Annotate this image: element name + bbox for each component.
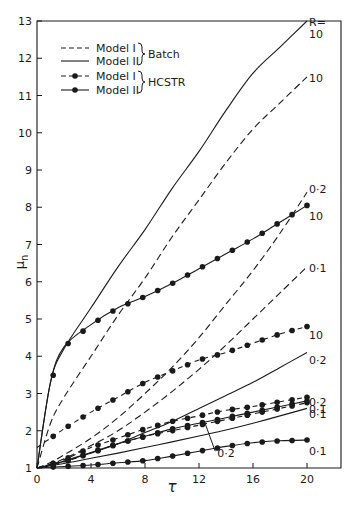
data-point bbox=[230, 407, 236, 413]
data-point bbox=[155, 431, 161, 437]
data-point bbox=[230, 348, 236, 354]
data-point bbox=[185, 272, 191, 278]
data-point bbox=[259, 439, 265, 445]
chart-svg: 12345678910111213048121620 R=10100·20·10… bbox=[0, 0, 358, 509]
data-point bbox=[80, 463, 86, 469]
data-point bbox=[244, 412, 250, 418]
data-point bbox=[289, 438, 295, 444]
series-hcstr-model-ii-r-0-2: 0·2 bbox=[37, 396, 327, 468]
data-point bbox=[304, 400, 310, 406]
legend-entry: Model I bbox=[61, 42, 136, 55]
series-end-label: 10 bbox=[309, 210, 323, 223]
data-point bbox=[140, 381, 146, 387]
series-hcstr-model-ii-r-0-1: 0·1 bbox=[37, 437, 327, 470]
legend-brace bbox=[138, 43, 145, 65]
y-axis-label-sub: n bbox=[19, 255, 30, 261]
data-point bbox=[304, 437, 310, 443]
series-hcstr-model-i-r-0-1: 0·1 bbox=[37, 400, 327, 468]
data-point bbox=[200, 264, 206, 270]
data-point bbox=[140, 458, 146, 464]
annotation-0-2: 0·2 bbox=[204, 421, 234, 459]
series-end-label: 0·1 bbox=[309, 408, 327, 421]
series-end-label: 0·1 bbox=[309, 445, 327, 458]
series-end-label: 10 bbox=[309, 28, 323, 41]
data-point bbox=[244, 239, 250, 245]
data-point bbox=[215, 419, 221, 425]
y-tick-label: 13 bbox=[18, 15, 32, 28]
x-tick-label: 4 bbox=[88, 473, 95, 486]
data-point bbox=[200, 448, 206, 454]
annotation-label: 0·2 bbox=[217, 447, 235, 460]
series-end-label: 10 bbox=[309, 329, 323, 342]
data-point bbox=[274, 399, 280, 405]
data-point bbox=[125, 432, 131, 438]
y-tick-label: 11 bbox=[18, 90, 32, 103]
series-batch-model-i-r-0-2: 0·2 bbox=[37, 183, 327, 468]
legend-entry: Model II bbox=[61, 55, 139, 68]
data-point bbox=[80, 328, 86, 334]
data-point bbox=[110, 397, 116, 403]
x-tick-label: 16 bbox=[246, 473, 260, 486]
data-point bbox=[170, 428, 176, 434]
data-point bbox=[170, 453, 176, 459]
data-point bbox=[125, 389, 131, 395]
data-point bbox=[274, 438, 280, 444]
y-tick-label: 10 bbox=[18, 127, 32, 140]
legend-label: Model II bbox=[96, 55, 139, 68]
data-point bbox=[215, 352, 221, 358]
data-point bbox=[65, 341, 71, 347]
data-point bbox=[259, 409, 265, 415]
data-point bbox=[259, 337, 265, 343]
data-point bbox=[125, 301, 131, 307]
data-point bbox=[95, 317, 101, 323]
data-point bbox=[170, 419, 176, 425]
data-point bbox=[170, 368, 176, 374]
y-tick-label: 3 bbox=[25, 388, 32, 401]
data-point bbox=[125, 438, 131, 444]
data-point bbox=[185, 425, 191, 431]
data-point bbox=[200, 412, 206, 418]
data-point bbox=[140, 295, 146, 301]
series-end-label: 0·1 bbox=[309, 262, 327, 275]
series-end-label: 0·2 bbox=[309, 354, 327, 367]
legend-label: Model II bbox=[96, 84, 139, 97]
data-point bbox=[125, 459, 131, 465]
data-point bbox=[95, 448, 101, 454]
data-point bbox=[50, 372, 56, 378]
y-tick-label: 6 bbox=[25, 276, 32, 289]
legend-marker bbox=[72, 73, 78, 79]
x-tick-label: 0 bbox=[34, 473, 41, 486]
y-tick-label: 1 bbox=[25, 462, 32, 475]
series-line bbox=[37, 408, 307, 468]
data-point bbox=[289, 328, 295, 334]
data-point bbox=[170, 280, 176, 286]
data-point bbox=[289, 212, 295, 218]
data-point bbox=[244, 342, 250, 348]
data-point bbox=[65, 458, 71, 464]
series-batch-model-i-r-0-1: 0·1 bbox=[37, 262, 327, 468]
legend-entry: Model I bbox=[61, 70, 136, 83]
legend-marker bbox=[72, 87, 78, 93]
data-point bbox=[185, 415, 191, 421]
data-point bbox=[140, 434, 146, 440]
data-point bbox=[140, 427, 146, 433]
data-point bbox=[289, 403, 295, 409]
data-point bbox=[50, 464, 56, 470]
data-point bbox=[244, 405, 250, 411]
data-point bbox=[65, 424, 71, 430]
legend-entry: Model II bbox=[61, 84, 139, 97]
data-point bbox=[304, 203, 310, 209]
data-point bbox=[155, 288, 161, 294]
data-point bbox=[304, 324, 310, 330]
data-point bbox=[230, 248, 236, 254]
data-point bbox=[80, 414, 86, 420]
legend-label: Model I bbox=[96, 42, 136, 55]
data-point bbox=[95, 442, 101, 448]
data-point bbox=[65, 463, 71, 469]
y-tick-label: 12 bbox=[18, 52, 32, 65]
data-point bbox=[185, 450, 191, 456]
y-axis-label-main: μ bbox=[12, 261, 27, 269]
x-tick-label: 8 bbox=[142, 473, 149, 486]
data-point bbox=[274, 221, 280, 227]
y-tick-label: 7 bbox=[25, 239, 32, 252]
